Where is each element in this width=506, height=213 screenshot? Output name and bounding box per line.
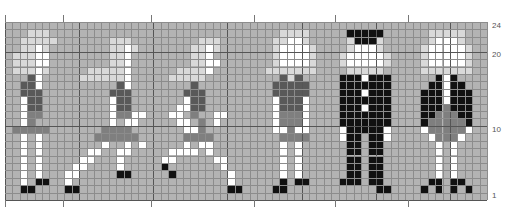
pattern-cell (220, 163, 227, 170)
pattern-cell (42, 126, 49, 133)
pattern-cell (64, 185, 71, 192)
pattern-cell (35, 141, 42, 148)
pattern-cell (279, 52, 286, 59)
pattern-cell (176, 74, 183, 81)
pattern-cell (20, 104, 27, 111)
pattern-cell (265, 67, 272, 74)
pattern-cell (27, 44, 34, 51)
pattern-cell (435, 141, 442, 148)
pattern-cell (205, 59, 212, 66)
pattern-cell (346, 89, 353, 96)
pattern-cell (124, 118, 131, 125)
pattern-cell (376, 52, 383, 59)
pattern-cell (383, 126, 390, 133)
pattern-cell (361, 81, 368, 88)
pattern-cell (383, 74, 390, 81)
grid-line-horizontal (5, 81, 487, 82)
pattern-cell (368, 133, 375, 140)
pattern-cell (376, 111, 383, 118)
pattern-cell (354, 118, 361, 125)
pattern-cell (27, 118, 34, 125)
pattern-cell (161, 156, 168, 163)
grid-line-horizontal (5, 178, 487, 179)
pattern-cell (420, 52, 427, 59)
pattern-cell (420, 96, 427, 103)
pattern-cell (124, 44, 131, 51)
pattern-cell (450, 141, 457, 148)
grid-line-horizontal (5, 29, 487, 30)
pattern-cell (109, 67, 116, 74)
pattern-cell (27, 59, 34, 66)
pattern-cell (198, 74, 205, 81)
pattern-cell (443, 89, 450, 96)
pattern-cell (101, 74, 108, 81)
pattern-cell (376, 96, 383, 103)
pattern-cell (435, 185, 442, 192)
pattern-cell (272, 37, 279, 44)
pattern-cell (376, 37, 383, 44)
pattern-cell (302, 52, 309, 59)
pattern-cell (346, 170, 353, 177)
pattern-cell (198, 52, 205, 59)
pattern-cell (376, 59, 383, 66)
pattern-cell (435, 163, 442, 170)
pattern-cell (116, 156, 123, 163)
pattern-cell (138, 141, 145, 148)
pattern-cell (198, 96, 205, 103)
pattern-cell (361, 37, 368, 44)
pattern-cell (294, 126, 301, 133)
pattern-cell (294, 133, 301, 140)
pattern-cell (183, 89, 190, 96)
pattern-cell (124, 111, 131, 118)
pattern-cell (205, 148, 212, 155)
pattern-cell (12, 59, 19, 66)
pattern-cell (368, 37, 375, 44)
pattern-cell (354, 29, 361, 36)
pattern-cell (279, 156, 286, 163)
pattern-cell (309, 52, 316, 59)
top-tick (151, 15, 152, 22)
pattern-cell (376, 126, 383, 133)
pattern-cell (279, 67, 286, 74)
pattern-cell (116, 148, 123, 155)
pattern-cell (361, 126, 368, 133)
pattern-cell (49, 37, 56, 44)
pattern-cell (294, 163, 301, 170)
pattern-cell (346, 156, 353, 163)
pattern-cell (287, 111, 294, 118)
pattern-cell (294, 104, 301, 111)
pattern-cell (361, 59, 368, 66)
pattern-cell (124, 141, 131, 148)
pattern-cell (354, 81, 361, 88)
pattern-cell (450, 44, 457, 51)
pattern-cell (124, 104, 131, 111)
pattern-cell (435, 148, 442, 155)
pattern-cell (294, 96, 301, 103)
pattern-cell (279, 29, 286, 36)
pattern-cell (443, 59, 450, 66)
pattern-cell (361, 118, 368, 125)
pattern-cell (435, 111, 442, 118)
pattern-cell (450, 52, 457, 59)
pattern-cell (354, 59, 361, 66)
pattern-cell (205, 44, 212, 51)
top-tick (335, 15, 336, 22)
pattern-cell (287, 89, 294, 96)
pattern-cell (20, 141, 27, 148)
pattern-cell (109, 118, 116, 125)
pattern-cell (376, 141, 383, 148)
pattern-cell (279, 126, 286, 133)
grid-line-horizontal (5, 156, 487, 157)
pattern-cell (339, 81, 346, 88)
top-tick (254, 15, 255, 22)
pattern-cell (279, 178, 286, 185)
pattern-cell (302, 104, 309, 111)
pattern-cell (190, 52, 197, 59)
pattern-cell (443, 133, 450, 140)
pattern-cell (368, 111, 375, 118)
pattern-cell (87, 67, 94, 74)
pattern-cell (428, 126, 435, 133)
pattern-cell (198, 89, 205, 96)
pattern-cell (354, 67, 361, 74)
pattern-cell (220, 111, 227, 118)
